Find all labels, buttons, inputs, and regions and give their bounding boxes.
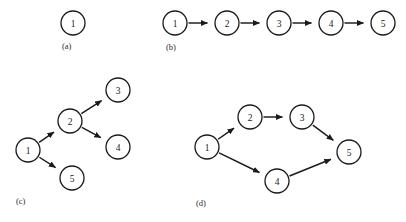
- graph-node-d-1: 1: [195, 135, 219, 159]
- node-label: 3: [116, 86, 121, 96]
- graph-edge-3-to-5: [313, 125, 334, 140]
- graph-node-a-1: 1: [61, 11, 85, 35]
- graph-node-b-2: 2: [215, 11, 239, 35]
- graph-edge-2-to-4: [82, 127, 101, 137]
- figure-canvas: 1123451234512345 (a)(b)(c)(d): [0, 0, 406, 222]
- graph-node-d-5: 5: [337, 140, 361, 164]
- graph-node-c-1: 1: [16, 138, 40, 162]
- graph-node-d-3: 3: [290, 105, 314, 129]
- nodes-layer: 1123451234512345: [16, 11, 395, 193]
- panel-label-b: (b): [166, 42, 176, 52]
- graph-node-b-3: 3: [267, 11, 291, 35]
- graph-node-b-4: 4: [319, 11, 343, 35]
- node-label: 2: [68, 117, 73, 127]
- node-label: 2: [248, 113, 253, 123]
- node-label: 2: [225, 19, 230, 29]
- graph-node-c-3: 3: [106, 78, 130, 102]
- graph-edge-1-to-5: [39, 157, 55, 167]
- node-label: 3: [277, 19, 282, 29]
- node-label: 1: [173, 19, 178, 29]
- node-label: 1: [71, 19, 76, 29]
- node-label: 3: [300, 113, 305, 123]
- graph-edge-1-to-2: [218, 128, 234, 139]
- node-label: 5: [347, 148, 352, 158]
- node-label: 1: [26, 146, 31, 156]
- node-label: 1: [205, 143, 210, 153]
- graph-edge-2-to-3: [81, 101, 101, 114]
- graph-node-c-5: 5: [60, 166, 84, 190]
- graph-node-c-2: 2: [58, 109, 82, 133]
- graph-node-d-2: 2: [238, 105, 262, 129]
- node-label: 5: [381, 19, 386, 29]
- panel-labels-layer: (a)(b)(c)(d): [16, 41, 206, 208]
- node-label: 4: [275, 177, 280, 187]
- graph-edge-1-to-2: [39, 132, 54, 142]
- node-label: 5: [70, 174, 75, 184]
- node-label: 4: [329, 19, 334, 29]
- graph-node-b-1: 1: [163, 11, 187, 35]
- graph-figure: 1123451234512345 (a)(b)(c)(d): [0, 0, 406, 222]
- graph-edge-4-to-5: [290, 159, 331, 176]
- graph-edge-1-to-4: [219, 153, 259, 173]
- panel-label-d: (d): [196, 198, 206, 208]
- graph-node-c-4: 4: [106, 135, 130, 159]
- node-label: 4: [116, 143, 121, 153]
- panel-label-c: (c): [16, 196, 26, 206]
- graph-node-b-5: 5: [371, 11, 395, 35]
- panel-label-a: (a): [62, 41, 72, 51]
- graph-node-d-4: 4: [265, 169, 289, 193]
